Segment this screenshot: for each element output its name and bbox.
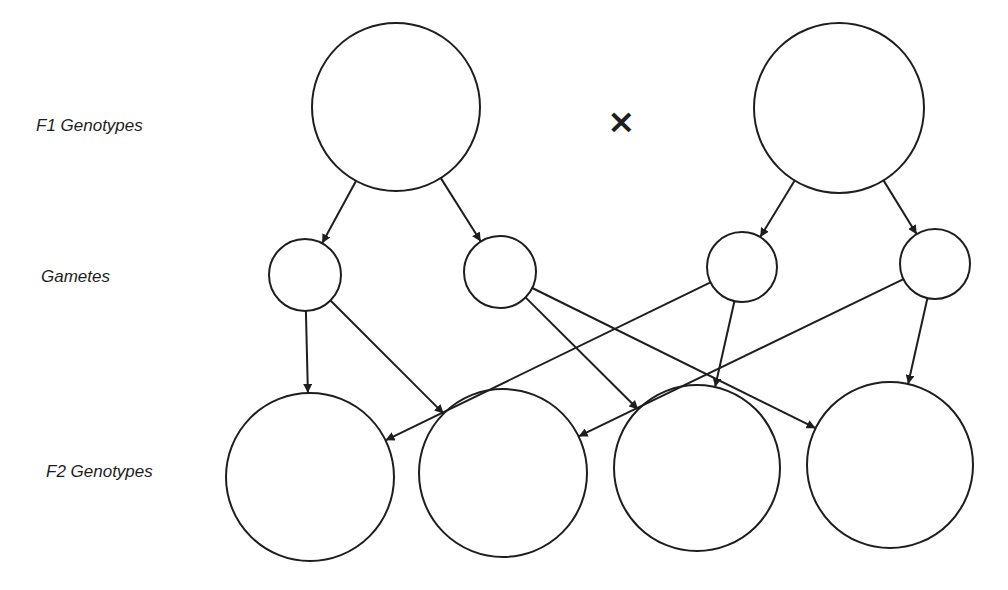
f2-genotype-circle-f2-d: [807, 382, 973, 548]
f2-genotype-circle-f2-c: [614, 385, 780, 551]
arrow-g4-to-f2-d: [908, 298, 927, 384]
arrows-group: [306, 178, 928, 440]
arrow-f1-left-to-g2: [441, 178, 481, 241]
gamete-circle-g3: [707, 232, 777, 302]
gamete-circle-g4: [900, 229, 970, 299]
f2-genotype-circle-f2-b: [419, 389, 587, 557]
diagram-canvas: [0, 0, 1008, 590]
f1-genotype-circle-f1-left: [312, 23, 480, 191]
arrow-g3-to-f2-a: [386, 282, 711, 440]
f1-genotype-circle-f1-right: [754, 23, 924, 193]
gamete-circle-g2: [464, 236, 536, 308]
arrow-f1-left-to-g1: [322, 181, 356, 243]
f2-genotype-circle-f2-a: [226, 393, 394, 561]
arrow-g2-to-f2-d: [532, 288, 815, 428]
arrow-f1-right-to-g3: [760, 181, 795, 238]
arrow-g1-to-f2-b: [331, 301, 444, 414]
arrow-g1-to-f2-a: [306, 311, 308, 393]
arrow-f1-right-to-g4: [884, 180, 917, 234]
circles-group: [226, 23, 973, 561]
gamete-circle-g1: [269, 239, 341, 311]
arrow-g2-to-f2-c: [526, 297, 639, 409]
arrow-g3-to-f2-c: [715, 301, 734, 387]
